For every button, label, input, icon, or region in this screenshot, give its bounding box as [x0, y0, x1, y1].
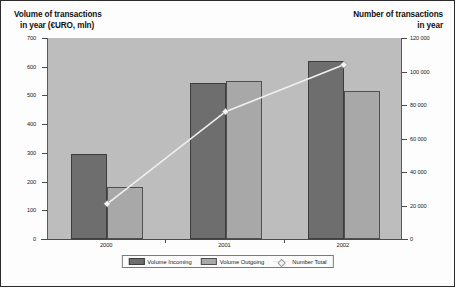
legend-label: Number Total: [292, 259, 326, 265]
legend-label: Volume Outgoing: [220, 259, 264, 265]
left-tick-label: 700: [27, 35, 36, 41]
category-separator-tick: [165, 239, 166, 243]
left-tick-label: 600: [27, 64, 36, 70]
right-tick-label: 100 000: [410, 69, 430, 75]
left-tick-label: 400: [27, 121, 36, 127]
category-label: 2002: [323, 242, 363, 248]
left-axis-title-line1: Volume of transactions: [14, 10, 164, 21]
left-tick-label: 100: [27, 207, 36, 213]
legend-item: Number Total: [273, 259, 326, 265]
chart-legend: Volume IncomingVolume OutgoingNumber Tot…: [121, 255, 333, 268]
right-axis-title-line1: Number of transactions: [293, 10, 443, 21]
line-marker: [340, 61, 347, 68]
left-tick-label: 0: [33, 236, 36, 242]
category-separator-tick: [284, 239, 285, 243]
right-axis-title: Number of transactions in year: [293, 10, 443, 31]
right-tick-label: 0: [410, 236, 413, 242]
right-tick-label: 120 000: [410, 35, 430, 41]
legend-line-swatch-icon: [273, 259, 289, 264]
chart-frame: Volume of transactions in year (€URO, ml…: [0, 0, 455, 287]
right-tick-label: 60 000: [410, 136, 427, 142]
left-tick-label: 200: [27, 179, 36, 185]
left-axis-title: Volume of transactions in year (€URO, ml…: [14, 10, 164, 31]
plot-area: [47, 38, 402, 239]
category-label: 2001: [205, 242, 245, 248]
right-tick-label: 80 000: [410, 102, 427, 108]
legend-item: Volume Outgoing: [201, 258, 264, 265]
left-axis-title-line2: in year (€URO, mln): [14, 21, 164, 32]
legend-swatch-icon: [128, 258, 144, 265]
right-axis-title-line2: in year: [293, 21, 443, 32]
legend-swatch-icon: [201, 258, 217, 265]
left-tick-label: 500: [27, 92, 36, 98]
number-total-line: [48, 38, 403, 239]
left-tick-label: 300: [27, 150, 36, 156]
right-tick-label: 20 000: [410, 203, 427, 209]
legend-label: Volume Incoming: [147, 259, 191, 265]
x-axis-baseline: [41, 239, 408, 240]
right-tick-label: 40 000: [410, 169, 427, 175]
legend-item: Volume Incoming: [128, 258, 191, 265]
category-label: 2000: [86, 242, 126, 248]
